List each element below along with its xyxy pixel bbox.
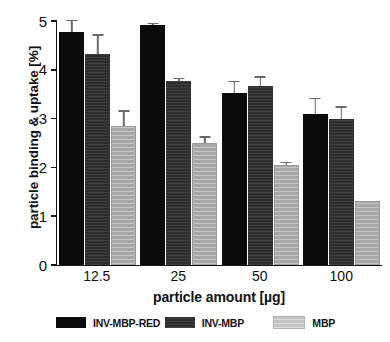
bar-rect [355,201,380,265]
error-bar [173,78,184,81]
error-bar-cap [66,20,77,21]
legend-item-inv-mbp-red[interactable]: INV-MBP-RED [56,317,165,329]
error-bar-line [341,106,342,119]
bar-rect [85,54,110,265]
bar-group [220,22,301,265]
bar-inv-mbp-red-50[interactable] [222,22,247,265]
chart-legend: INV-MBP-REDINV-MBPMBP [56,316,382,329]
error-bar [199,136,210,143]
error-bar [66,20,77,32]
error-bar-line [97,34,98,54]
error-bar [229,81,240,94]
y-axis-title: particle binding & uptake [%] [26,13,41,263]
x-axis-tick-label: 100 [301,268,383,284]
error-bar-cap [281,162,292,163]
y-axis-tick-label: 0 [39,258,51,273]
plot-area: 012345 [56,22,382,266]
bar-mbp-100[interactable] [355,22,380,265]
error-bar-cap [147,23,158,24]
legend-swatch [273,316,305,329]
bar-rect [222,93,247,265]
legend-label: MBP [312,317,335,329]
error-bar [118,110,129,126]
error-bar-cap [199,136,210,137]
bar-mbp-25[interactable] [192,22,217,265]
error-bar-cap [255,76,266,77]
bar-rect [303,114,328,265]
bar-rect [329,119,354,265]
x-axis-tick-label: 50 [219,268,301,284]
x-axis-tick-label: 25 [138,268,220,284]
bar-rect [274,165,299,265]
x-axis-ticks: 12.52550100 [56,268,382,284]
error-bar [281,162,292,165]
error-bar [255,76,266,86]
legend-item-inv-mbp[interactable]: INV-MBP [165,317,274,329]
bar-inv-mbp-red-12.5[interactable] [59,22,84,265]
bars-layer [57,22,382,265]
error-bar-line [315,98,316,114]
bar-mbp-12.5[interactable] [111,22,136,265]
error-bar [336,106,347,119]
y-axis-tick-label: 1 [39,209,51,224]
y-axis-tick-label: 3 [39,111,51,126]
bar-group [301,22,382,265]
bar-chart: particle binding & uptake [%] 012345 12.… [0,0,390,342]
error-bar-line [123,110,124,126]
error-bar-cap [173,78,184,79]
bar-group [57,22,138,265]
legend-swatch [56,317,86,328]
error-bar-cap [310,98,321,99]
bar-group [138,22,219,265]
bar-inv-mbp-red-100[interactable] [303,22,328,265]
bar-inv-mbp-25[interactable] [166,22,191,265]
bar-rect [111,126,136,265]
error-bar-cap [118,110,129,111]
bar-rect [59,32,84,265]
y-axis-tick-label: 2 [39,160,51,175]
error-bar-line [233,81,234,94]
bar-rect [192,143,217,265]
error-bar-cap [92,34,103,35]
bar-rect [166,81,191,265]
bar-inv-mbp-12.5[interactable] [85,22,110,265]
error-bar-line [71,20,72,32]
legend-swatch [165,317,195,328]
bar-mbp-50[interactable] [274,22,299,265]
legend-label: INV-MBP [202,317,244,329]
error-bar [147,23,158,25]
x-axis-tick-label: 12.5 [56,268,138,284]
bar-rect [140,25,165,265]
error-bar-cap [336,106,347,107]
x-axis-title: particle amount [µg] [56,289,382,305]
bar-inv-mbp-red-25[interactable] [140,22,165,265]
error-bar-line [259,76,260,86]
legend-label: INV-MBP-RED [93,317,160,329]
error-bar-cap [229,81,240,82]
error-bar [92,34,103,54]
error-bar [310,98,321,114]
y-axis-tick-label: 4 [39,62,51,77]
bar-inv-mbp-100[interactable] [329,22,354,265]
bar-rect [248,86,273,265]
y-axis-tick-label: 5 [39,14,51,29]
bar-inv-mbp-50[interactable] [248,22,273,265]
legend-item-mbp[interactable]: MBP [273,316,382,329]
